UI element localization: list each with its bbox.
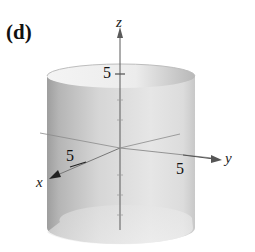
- panel-label: (d): [6, 20, 32, 45]
- z-tick-label: 5: [103, 64, 111, 82]
- x-tick-label: 5: [66, 147, 74, 165]
- cylinder-figure: (d) z 5 x 5 y 5: [0, 0, 255, 252]
- z-axis-label: z: [116, 14, 122, 31]
- cylinder-plot: [0, 0, 255, 252]
- y-arrow-icon: [211, 155, 222, 163]
- x-axis-label: x: [36, 174, 43, 191]
- y-tick-label: 5: [176, 160, 184, 178]
- y-axis-label: y: [225, 150, 232, 167]
